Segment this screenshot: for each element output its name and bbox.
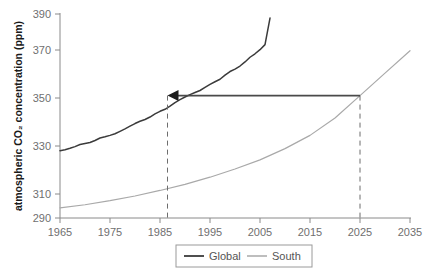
chart-figure: atmospheric CO₂ concentration (ppm) 290 …: [0, 0, 427, 274]
x-axis-ticks: 1965 1975 1985 1995 2005 2015 2025 2035: [48, 218, 422, 238]
annotation-arrow-head-icon: [168, 90, 179, 101]
y-axis-ticks: 290 310 330 350 370 390: [33, 8, 60, 224]
chart-legend: Global South: [176, 245, 312, 267]
y-tick-label: 290: [33, 212, 51, 224]
legend-label-global: Global: [209, 250, 241, 262]
x-tick-label: 2035: [398, 226, 422, 238]
legend-label-south: South: [272, 250, 301, 262]
y-tick-label: 390: [33, 8, 51, 20]
x-tick-label: 2005: [248, 226, 272, 238]
y-tick-label: 370: [33, 44, 51, 56]
x-tick-label: 2015: [298, 226, 322, 238]
y-tick-label: 310: [33, 188, 51, 200]
series-line-global: [60, 18, 270, 151]
y-axis-title: atmospheric CO₂ concentration (ppm): [12, 21, 24, 211]
x-tick-label: 1995: [198, 226, 222, 238]
co2-concentration-line-chart: atmospheric CO₂ concentration (ppm) 290 …: [0, 0, 427, 274]
x-tick-label: 1975: [98, 226, 122, 238]
y-tick-label: 350: [33, 92, 51, 104]
x-tick-label: 1985: [148, 226, 172, 238]
x-tick-label: 2025: [348, 226, 372, 238]
x-tick-label: 1965: [48, 226, 72, 238]
series-line-south: [60, 51, 410, 208]
y-tick-label: 330: [33, 140, 51, 152]
